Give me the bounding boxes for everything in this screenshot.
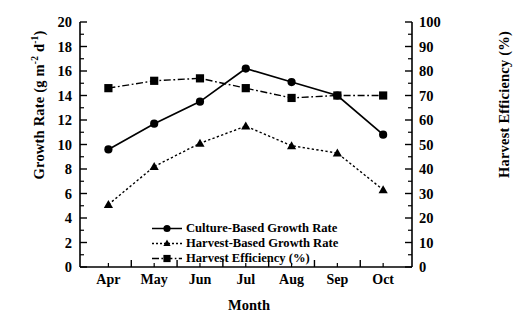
legend-item-harvest: Harvest-Based Growth Rate xyxy=(152,236,338,251)
legend-item-efficiency: Harvest Efficiency (%) xyxy=(152,251,338,266)
data-point-square xyxy=(287,94,295,102)
legend-label-culture: Culture-Based Growth Rate xyxy=(186,221,337,236)
data-point-triangle xyxy=(195,139,204,147)
data-point-circle xyxy=(150,120,158,128)
data-point-circle xyxy=(242,64,250,72)
series-triangle xyxy=(104,122,388,208)
data-point-square xyxy=(150,77,158,85)
data-point-square xyxy=(379,91,387,99)
series-square xyxy=(104,74,387,102)
data-point-square xyxy=(333,91,341,99)
data-point-triangle xyxy=(241,122,250,130)
data-point-triangle xyxy=(150,162,159,170)
data-point-square xyxy=(196,74,204,82)
data-point-circle xyxy=(196,98,204,106)
data-point-circle xyxy=(287,78,295,86)
legend-key-triangle-icon xyxy=(152,237,182,250)
data-point-triangle xyxy=(287,141,296,149)
legend-label-harvest: Harvest-Based Growth Rate xyxy=(186,236,338,251)
chart-legend: Culture-Based Growth Rate Harvest-Based … xyxy=(152,221,338,266)
legend-item-culture: Culture-Based Growth Rate xyxy=(152,221,338,236)
data-point-square xyxy=(242,84,250,92)
y-axis-right-title: Harvest Efficiency (%) xyxy=(496,5,513,205)
legend-key-circle-icon xyxy=(152,222,182,235)
data-point-circle xyxy=(379,131,387,139)
data-point-triangle xyxy=(333,148,342,156)
legend-label-efficiency: Harvest Efficiency (%) xyxy=(186,251,310,266)
data-point-square xyxy=(104,84,112,92)
data-point-circle xyxy=(104,145,112,153)
series-circle xyxy=(104,64,387,153)
legend-key-square-icon xyxy=(152,252,182,265)
